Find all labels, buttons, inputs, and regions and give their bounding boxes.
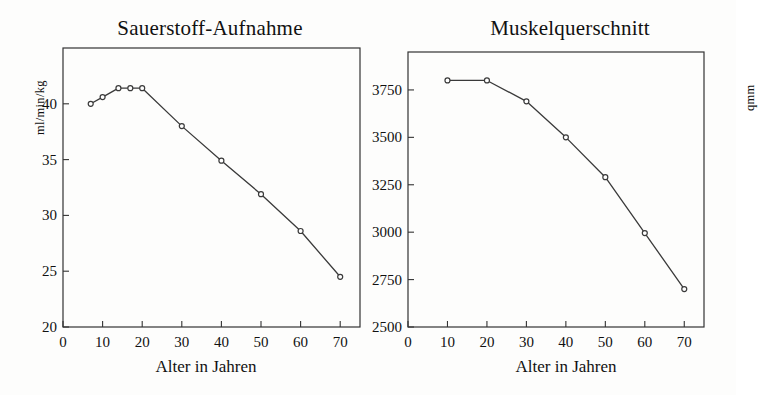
x-tick-label-left-4: 40 bbox=[214, 334, 229, 350]
chart-canvas-left: 0102030405060702025303540 bbox=[0, 0, 368, 395]
data-point-right-5 bbox=[642, 231, 647, 236]
y-tick-label-right-1: 2750 bbox=[372, 272, 402, 288]
y-axis-ticks-left bbox=[63, 104, 69, 327]
data-point-right-4 bbox=[603, 175, 608, 180]
plot-frame-right bbox=[408, 52, 704, 327]
y-axis-unit-label-right: qmm bbox=[743, 84, 758, 111]
data-point-left-2 bbox=[116, 86, 121, 91]
x-tick-label-right-2: 20 bbox=[479, 334, 494, 350]
x-tick-label-right-6: 60 bbox=[637, 334, 652, 350]
y-tick-label-right-0: 2500 bbox=[372, 319, 402, 335]
data-point-left-4 bbox=[140, 86, 145, 91]
data-markers-right bbox=[445, 78, 687, 292]
y-tick-label-right-4: 3500 bbox=[372, 129, 402, 145]
x-tick-label-left-3: 30 bbox=[174, 334, 189, 350]
x-tick-label-left-1: 10 bbox=[95, 334, 110, 350]
data-point-left-3 bbox=[128, 86, 133, 91]
y-tick-label-left-2: 30 bbox=[42, 207, 57, 223]
data-point-right-3 bbox=[563, 135, 568, 140]
data-point-left-0 bbox=[88, 101, 93, 106]
chart-panel-sauerstoff-aufnahme: Sauerstoff-Aufnahme ml/min/kg 0102030405… bbox=[0, 0, 368, 395]
x-axis-label-left: Alter in Jahren bbox=[0, 357, 390, 377]
x-tick-label-right-4: 40 bbox=[558, 334, 573, 350]
y-axis-ticks-right bbox=[408, 90, 414, 327]
y-tick-label-right-5: 3750 bbox=[372, 82, 402, 98]
chart-canvas-right: 010203040506070250027503000325035003750 bbox=[368, 0, 736, 395]
data-point-left-8 bbox=[298, 229, 303, 234]
x-axis-ticks-right bbox=[408, 321, 684, 327]
x-axis-label-right: Alter in Jahren bbox=[368, 357, 750, 377]
data-line-left bbox=[91, 88, 340, 277]
x-tick-label-left-5: 50 bbox=[254, 334, 269, 350]
data-markers-left bbox=[88, 86, 342, 280]
data-point-right-1 bbox=[484, 78, 489, 83]
x-tick-label-right-1: 10 bbox=[440, 334, 455, 350]
y-tick-label-left-3: 35 bbox=[42, 152, 57, 168]
y-tick-label-left-0: 20 bbox=[42, 319, 57, 335]
data-point-left-5 bbox=[179, 124, 184, 129]
data-point-left-1 bbox=[100, 95, 105, 100]
chart-panel-muskelquerschnitt: Muskelquerschnitt qmm 010203040506070250… bbox=[368, 0, 736, 395]
y-tick-label-left-1: 25 bbox=[42, 263, 57, 279]
x-tick-label-left-6: 60 bbox=[293, 334, 308, 350]
x-tick-label-left-0: 0 bbox=[59, 334, 67, 350]
data-point-left-9 bbox=[338, 274, 343, 279]
x-axis-ticks-left bbox=[63, 321, 340, 327]
y-tick-label-left-4: 40 bbox=[42, 96, 57, 112]
x-tick-label-right-7: 70 bbox=[677, 334, 692, 350]
x-tick-label-right-5: 50 bbox=[598, 334, 613, 350]
data-point-left-6 bbox=[219, 158, 224, 163]
data-point-right-6 bbox=[682, 287, 687, 292]
data-line-right bbox=[447, 80, 684, 289]
y-tick-label-right-3: 3250 bbox=[372, 177, 402, 193]
y-tick-label-right-2: 3000 bbox=[372, 224, 402, 240]
x-tick-label-right-0: 0 bbox=[404, 334, 412, 350]
x-tick-label-left-2: 20 bbox=[135, 334, 150, 350]
x-tick-label-left-7: 70 bbox=[333, 334, 348, 350]
data-point-right-2 bbox=[524, 99, 529, 104]
data-point-left-7 bbox=[259, 192, 264, 197]
data-point-right-0 bbox=[445, 78, 450, 83]
plot-frame-left bbox=[63, 48, 360, 327]
x-tick-label-right-3: 30 bbox=[519, 334, 534, 350]
